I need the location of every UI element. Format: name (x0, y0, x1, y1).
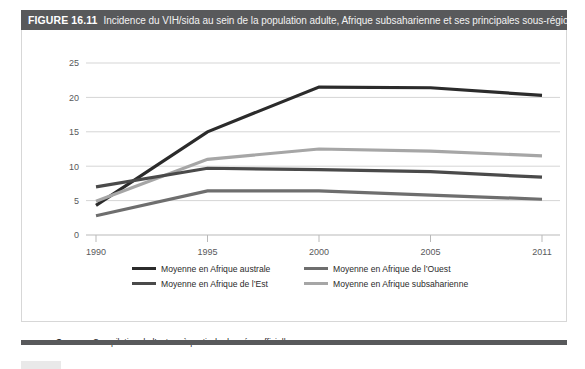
bottom-rule-divider (21, 340, 567, 345)
x-tick-label-1995: 1995 (197, 247, 217, 257)
y-tick-label-5: 5 (74, 196, 79, 206)
series-lines-group (96, 87, 542, 216)
y-tick-label-10: 10 (69, 162, 79, 172)
legend-label-afrique-subsaharienne: Moyenne en Afrique subsaharienne (333, 279, 468, 289)
legend-swatch-afrique-est (132, 282, 156, 285)
y-axis-tick-labels: 0510152025 (69, 58, 79, 240)
legend-label-afrique-ouest: Moyenne en Afrique de l’Ouest (333, 264, 451, 274)
y-tick-label-25: 25 (69, 58, 79, 68)
legend-swatch-afrique-subsaharienne (304, 282, 328, 285)
legend-label-afrique-est: Moyenne en Afrique de l’Est (161, 279, 268, 289)
y-tick-label-0: 0 (74, 230, 79, 240)
legend-label-afrique-australe: Moyenne en Afrique australe (161, 264, 270, 274)
series-line-0 (96, 87, 542, 205)
legend-swatch-afrique-australe (132, 267, 156, 270)
legend-swatch-afrique-ouest (304, 267, 328, 270)
x-tick-label-2011: 2011 (532, 247, 551, 257)
x-tick-label-2005: 2005 (420, 247, 440, 257)
legend-item-afrique-est: Moyenne en Afrique de l’Est (132, 276, 304, 291)
chart-legend: Moyenne en Afrique australe Moyenne en A… (132, 261, 492, 291)
bottom-corner-tab (21, 361, 61, 369)
figure-header-bar: FIGURE 16.11 Incidence du VIH/sida au se… (21, 10, 567, 30)
y-tick-label-15: 15 (69, 127, 79, 137)
figure-caption-text: Incidence du VIH/sida au sein de la popu… (103, 15, 567, 26)
x-axis-tick-marks (96, 235, 542, 242)
figure-page: FIGURE 16.11 Incidence du VIH/sida au se… (0, 0, 585, 369)
figure-number-label: FIGURE 16.11 (28, 14, 97, 26)
legend-item-afrique-subsaharienne: Moyenne en Afrique subsaharienne (304, 276, 492, 291)
x-tick-label-2000: 2000 (309, 247, 329, 257)
y-tick-label-20: 20 (69, 93, 79, 103)
legend-item-afrique-ouest: Moyenne en Afrique de l’Ouest (304, 261, 492, 276)
chart-frame: 0510152025 19901995200020052011 Moyenne … (21, 30, 567, 322)
legend-item-afrique-australe: Moyenne en Afrique australe (132, 261, 304, 276)
x-tick-label-1990: 1990 (86, 247, 106, 257)
x-axis-tick-labels: 19901995200020052011 (86, 247, 552, 257)
series-line-3 (96, 191, 542, 216)
